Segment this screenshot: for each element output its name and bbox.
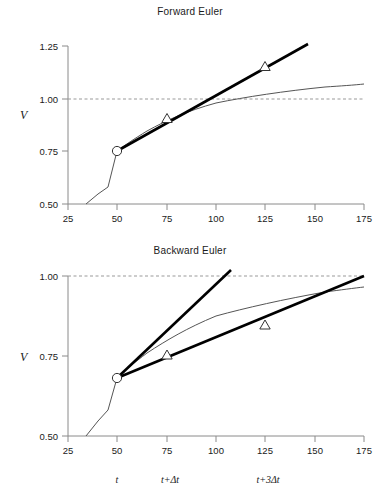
y-tick-label: 1.00 bbox=[40, 271, 59, 282]
x-tick-label: 25 bbox=[63, 213, 74, 224]
x-tick-label: 125 bbox=[257, 213, 273, 224]
y-tick-label: 0.75 bbox=[40, 146, 59, 157]
step-marker-1-top bbox=[162, 114, 172, 123]
x-tick-label: 25 bbox=[63, 445, 74, 456]
x-tick-label: 175 bbox=[356, 213, 372, 224]
start-point-marker-top bbox=[112, 146, 121, 155]
x-tick-label: 100 bbox=[208, 213, 224, 224]
x-tick-label: 75 bbox=[162, 213, 173, 224]
y-tick-label: 1.25 bbox=[40, 41, 59, 52]
plot-svg-forward-euler: 1.25 1.00 0.75 0.50 25 50 75 100 125 150 bbox=[0, 0, 380, 240]
x-tick-label: 50 bbox=[112, 445, 123, 456]
y-ticks-bottom: 1.00 0.75 0.50 bbox=[40, 271, 69, 442]
y-tick-label: 0.50 bbox=[40, 199, 59, 210]
x-tick-label: 75 bbox=[162, 445, 173, 456]
x-ticks-bottom: 25 50 75 100 125 150 175 bbox=[63, 436, 372, 456]
y-tick-label: 1.00 bbox=[40, 94, 59, 105]
step-marker-3-bottom bbox=[260, 320, 270, 329]
figure-root: Forward Euler V 1.25 1.00 0.75 0.50 bbox=[0, 0, 380, 497]
y-ticks-top: 1.25 1.00 0.75 0.50 bbox=[40, 41, 69, 210]
time-annotations: t t+Δt t+3Δt bbox=[116, 474, 280, 485]
annotation-t-plus-dt: t+Δt bbox=[161, 474, 179, 485]
x-tick-label: 150 bbox=[307, 445, 323, 456]
annotation-t-plus-3dt: t+3Δt bbox=[256, 474, 279, 485]
x-tick-label: 125 bbox=[257, 445, 273, 456]
panel-forward-euler: Forward Euler V 1.25 1.00 0.75 0.50 bbox=[0, 0, 380, 240]
x-tick-label: 175 bbox=[356, 445, 372, 456]
panel-backward-euler: Backward Euler V 1.00 0.75 0.50 bbox=[0, 240, 380, 497]
backward-euler-line-3dt bbox=[117, 276, 364, 378]
backward-euler-line-dt bbox=[117, 270, 231, 378]
x-tick-label: 150 bbox=[307, 213, 323, 224]
forward-euler-line bbox=[117, 44, 308, 151]
annotation-t: t bbox=[116, 474, 119, 485]
y-tick-label: 0.50 bbox=[40, 431, 59, 442]
y-tick-label: 0.75 bbox=[40, 351, 59, 362]
plot-svg-backward-euler: 1.00 0.75 0.50 25 50 75 100 125 150 175 bbox=[0, 240, 380, 497]
x-tick-label: 100 bbox=[208, 445, 224, 456]
x-tick-label: 50 bbox=[112, 213, 123, 224]
exact-solution-curve-bottom bbox=[86, 287, 364, 436]
x-ticks-top: 25 50 75 100 125 150 175 bbox=[63, 204, 372, 224]
start-point-marker-bottom bbox=[112, 373, 121, 382]
